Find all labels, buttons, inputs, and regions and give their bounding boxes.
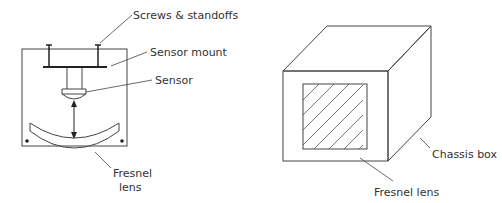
focal-distance-arrow-icon [71, 100, 77, 139]
right-chassis-box: Chassis box Fresnel lens [283, 26, 498, 203]
label-fresnel-line2: lens [119, 181, 142, 194]
label-screws-standoffs: Screws & standoffs [133, 9, 238, 22]
label-fresnel-lens: Fresnel lens [374, 186, 439, 199]
screws-icon [46, 45, 101, 66]
fresnel-lens-hatched [283, 40, 363, 203]
label-sensor-mount: Sensor mount [150, 46, 228, 59]
label-chassis-box: Chassis box [432, 148, 498, 161]
diagram-canvas: Screws & standoffs Sensor mount Sensor F… [0, 0, 502, 203]
cube-top-face [283, 26, 431, 71]
cube-side-face [388, 26, 431, 161]
label-fresnel-line1: Fresnel [113, 167, 152, 180]
left-sensor-assembly: Screws & standoffs Sensor mount Sensor F… [22, 9, 238, 194]
label-sensor: Sensor [155, 74, 193, 87]
